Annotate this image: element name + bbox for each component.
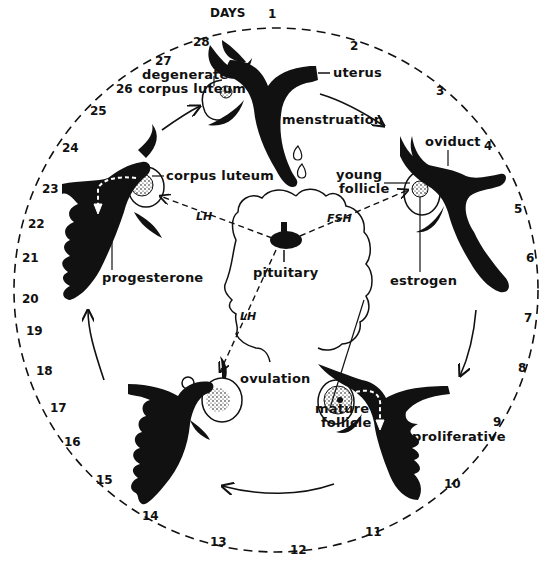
day-11: 11 [365, 525, 382, 539]
day-22: 22 [28, 217, 45, 231]
arrow-ovulation-to-secretory [88, 310, 104, 380]
day-19: 19 [26, 324, 43, 338]
label-young: young [336, 167, 382, 182]
label-ovulation: ovulation [240, 371, 311, 386]
label-oviduct: oviduct [425, 134, 481, 149]
day-9: 9 [493, 415, 501, 429]
day-14: 14 [142, 509, 159, 523]
day-13: 13 [210, 535, 227, 549]
label-lh-bottom: LH [240, 310, 256, 323]
diagram-canvas: DAYS 1 2 3 4 5 6 7 8 9 10 11 12 13 14 15… [0, 0, 557, 577]
ovulation-uterus: ovulation [128, 356, 311, 504]
day-7: 7 [524, 311, 532, 325]
day-17: 17 [50, 401, 67, 415]
day-21: 21 [22, 251, 39, 265]
day-23: 23 [42, 182, 59, 196]
label-corpus-luteum: corpus luteum [166, 168, 274, 183]
day-8: 8 [518, 361, 526, 375]
day-24: 24 [62, 141, 79, 155]
label-progesterone: progesterone [102, 270, 203, 285]
day-26: 26 [116, 82, 133, 96]
secretory-uterus: corpus luteum progesterone [62, 124, 274, 300]
day-18: 18 [36, 364, 53, 378]
proliferative-uterus: mature follicle proliferative [315, 300, 506, 500]
day-28: 28 [193, 35, 210, 49]
label-menstruation: menstruation [282, 112, 383, 127]
day-15: 15 [96, 473, 113, 487]
arrow-follicular-to-proliferative [460, 310, 476, 376]
label-lh-top: LH [196, 210, 212, 223]
menstruation-uterus: uterus menstruation degenerate corpus lu… [138, 40, 383, 187]
arrow-proliferative-to-ovulation [222, 484, 334, 493]
day-27: 27 [155, 54, 172, 68]
label-degenerate: degenerate [142, 67, 229, 82]
day-3: 3 [436, 84, 444, 98]
day-6: 6 [526, 251, 534, 265]
day-20: 20 [22, 292, 39, 306]
day-4: 4 [484, 139, 492, 153]
day-2: 2 [350, 39, 358, 53]
label-mature: mature [315, 401, 369, 416]
label-degenerate-corpus-luteum: corpus luteum [138, 81, 246, 96]
day-16: 16 [64, 435, 81, 449]
label-proliferative: proliferative [412, 429, 506, 444]
label-young-follicle: follicle [339, 181, 390, 196]
label-mature-follicle: follicle [321, 415, 372, 430]
day-25: 25 [90, 104, 107, 118]
arrow-secretory-to-menstruation [162, 106, 200, 130]
day-12: 12 [290, 543, 307, 557]
label-uterus: uterus [333, 65, 382, 80]
day-5: 5 [514, 202, 522, 216]
day-1: 1 [268, 7, 276, 21]
label-estrogen: estrogen [390, 273, 457, 288]
follicular-uterus: oviduct young follicle estrogen [336, 134, 509, 292]
menstrual-cycle-diagram: DAYS 1 2 3 4 5 6 7 8 9 10 11 12 13 14 15… [0, 0, 557, 577]
day-10: 10 [444, 477, 461, 491]
label-fsh: FSH [327, 212, 352, 225]
days-label: DAYS [210, 6, 245, 20]
